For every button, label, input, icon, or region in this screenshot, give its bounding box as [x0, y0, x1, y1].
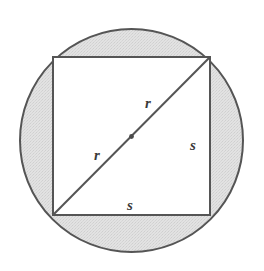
side-label-right: s [189, 137, 196, 153]
side-label-bottom: s [126, 197, 133, 213]
circle-center-dot [129, 134, 134, 139]
geometry-figure: r r s s [0, 0, 264, 271]
radius-label-lower: r [94, 147, 100, 163]
figure-canvas: r r s s [0, 0, 264, 271]
radius-label-upper: r [145, 95, 151, 111]
